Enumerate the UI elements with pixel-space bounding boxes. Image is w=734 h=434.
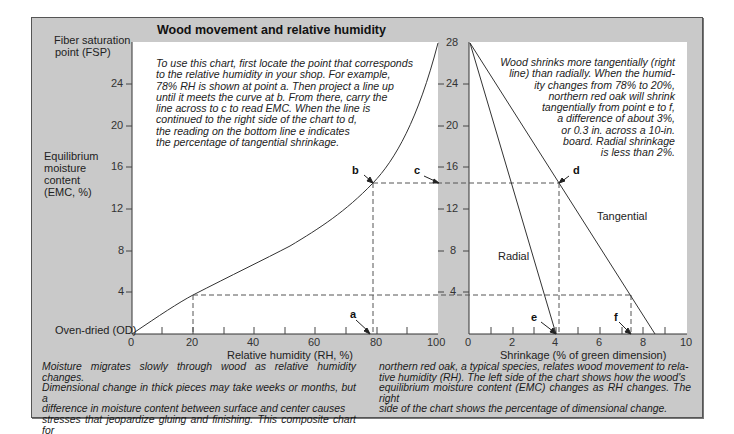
oven-dried-label: Oven-dried (OD) xyxy=(55,324,136,336)
point-d-label: d xyxy=(573,164,580,176)
point-b-label: b xyxy=(352,164,359,176)
point-a-label: a xyxy=(350,308,356,320)
caption-line: stresses that jeopardize gluing and fini… xyxy=(42,415,356,434)
caption-line: northern red oak, a typical species, rel… xyxy=(379,362,691,373)
note-line: the percentage of tangential shrinkage. xyxy=(156,137,436,148)
right-plot-note: Wood shrinks more tangentially (right li… xyxy=(500,57,675,159)
left-xlabel: Relative humidity (RH, %) xyxy=(227,349,353,361)
fsp-label-2: point (FSP) xyxy=(55,46,111,58)
center-ytick-16: 16 xyxy=(446,160,458,172)
caption-line: Moisture migrates slowly through wood as… xyxy=(42,362,356,383)
center-ytick-4: 4 xyxy=(450,285,456,297)
chart-title: Wood movement and relative humidity xyxy=(157,23,386,37)
emc-label-2: moisture xyxy=(44,162,86,174)
caption-right: northern red oak, a typical species, rel… xyxy=(379,362,691,415)
right-xtick-0: 0 xyxy=(465,336,471,348)
right-xlabel: Shrinkage (% of green dimension) xyxy=(500,349,666,361)
left-ytick-24: 24 xyxy=(111,77,123,89)
right-xtick-4: 4 xyxy=(552,336,558,348)
point-e-label: e xyxy=(531,311,537,323)
right-xtick-8: 8 xyxy=(640,336,646,348)
center-ytick-8: 8 xyxy=(450,244,456,256)
left-xtick-20: 20 xyxy=(186,336,198,348)
fsp-label-1: Fiber saturation xyxy=(54,34,130,46)
left-ytick-4: 4 xyxy=(118,285,124,297)
caption-line: Dimensional change in thick pieces may t… xyxy=(42,383,356,404)
left-xtick-40: 40 xyxy=(247,336,259,348)
note-line: is less than 2%. xyxy=(500,147,675,158)
radial-label: Radial xyxy=(498,250,529,262)
center-ytick-20: 20 xyxy=(446,119,458,131)
right-xtick-10: 10 xyxy=(680,336,692,348)
right-xtick-6: 6 xyxy=(596,336,602,348)
note-line: to the relative humidity in your shop. F… xyxy=(156,69,436,80)
left-xtick-0: 0 xyxy=(128,336,134,348)
center-ytick-24: 24 xyxy=(446,77,458,89)
emc-label-1: Equilibrium xyxy=(44,150,98,162)
tangential-label: Tangential xyxy=(597,210,647,222)
emc-label-3: content xyxy=(44,174,80,186)
left-xtick-100: 100 xyxy=(427,336,445,348)
left-ytick-16: 16 xyxy=(111,160,123,172)
left-ytick-20: 20 xyxy=(111,119,123,131)
point-c-label: c xyxy=(414,164,420,176)
center-ytick-28: 28 xyxy=(446,36,458,48)
right-xtick-2: 2 xyxy=(509,336,515,348)
note-line: line) than radially. When the humid- xyxy=(500,68,675,79)
point-f-label: f xyxy=(614,311,618,323)
caption-line: side of the chart shows the percentage o… xyxy=(379,404,691,415)
left-xtick-60: 60 xyxy=(308,336,320,348)
caption-left: Moisture migrates slowly through wood as… xyxy=(42,362,356,434)
emc-label-4: (EMC, %) xyxy=(44,186,92,198)
left-xtick-80: 80 xyxy=(370,336,382,348)
left-ytick-12: 12 xyxy=(111,202,123,214)
left-ytick-8: 8 xyxy=(118,244,124,256)
caption-line: equilibrium moisture content (EMC) chang… xyxy=(379,383,691,404)
left-plot-note: To use this chart, first locate the poin… xyxy=(156,58,436,148)
center-ytick-12: 12 xyxy=(446,202,458,214)
